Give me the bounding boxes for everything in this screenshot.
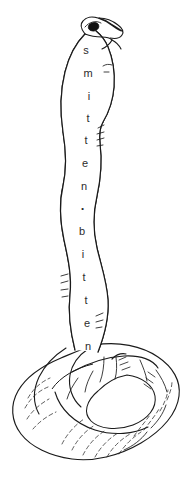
body-interior-fill: [60, 31, 114, 352]
head-outline: [81, 17, 122, 34]
neck-hatch-left: [61, 274, 68, 297]
eye-icon: [88, 23, 98, 31]
snout-top-curve: [99, 18, 123, 38]
coil-group: [13, 344, 180, 460]
illustration-canvas: smitten·bitten: [0, 0, 187, 483]
snake-line-art: [0, 0, 187, 483]
body-group: [60, 31, 114, 352]
head-to-hood-right: [112, 40, 121, 49]
